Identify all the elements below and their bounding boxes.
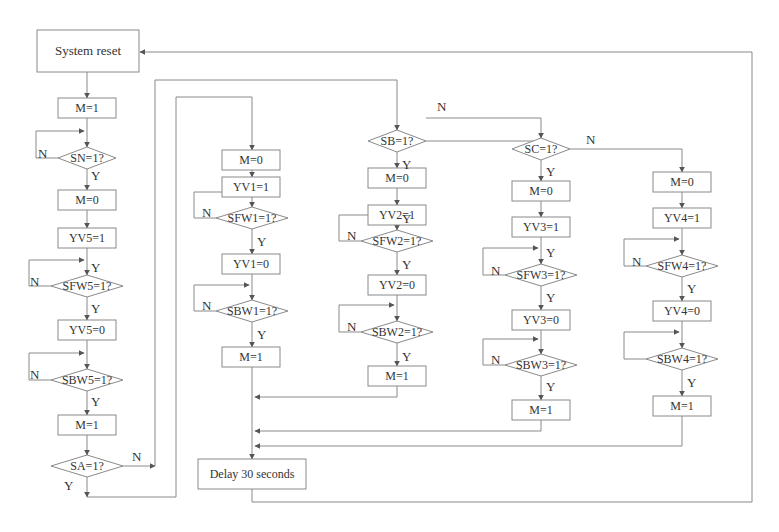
- branch-label-yes: Y: [687, 375, 697, 390]
- branch-label-yes: Y: [91, 394, 101, 409]
- node-label: M=1: [670, 399, 693, 413]
- branch-label-no: N: [437, 99, 447, 114]
- node-label: YV5=0: [69, 323, 105, 337]
- process-yv5on: YV5=1: [58, 228, 116, 248]
- decision-sb: SB=1?: [368, 130, 426, 152]
- node-label: YV5=1: [69, 231, 105, 245]
- process-yv3on: YV3=1: [512, 217, 570, 237]
- node-label: SN=1?: [70, 151, 103, 165]
- decision-sfw1: SFW1=1?: [216, 207, 288, 229]
- process-m1_4: M=1: [653, 396, 711, 416]
- process-yv1off: YV1=0: [222, 254, 280, 274]
- process-m1a: M=1: [58, 98, 116, 118]
- node-label: YV1=1: [233, 180, 269, 194]
- node-label: SFW2=1?: [373, 234, 422, 248]
- decision-sbw2: SBW2=1?: [361, 321, 433, 343]
- process-m0_4: M=0: [653, 172, 711, 192]
- node-label: M=1: [75, 101, 98, 115]
- branch-label-no: N: [347, 319, 357, 334]
- decision-sfw4: SFW4=1?: [646, 255, 718, 277]
- branch-label-yes: Y: [402, 349, 412, 364]
- process-m1b: M=1: [58, 415, 116, 435]
- node-label: M=0: [529, 184, 552, 198]
- decision-sbw5: SBW5=1?: [51, 369, 123, 391]
- node-label: YV3=1: [523, 220, 559, 234]
- edge-sc-no: [570, 149, 682, 172]
- edge-m1_2-to-merge: [255, 386, 397, 397]
- process-yv4off: YV4=0: [653, 301, 711, 321]
- node-label: M=1: [529, 403, 552, 417]
- node-label: SBW1=1?: [227, 304, 277, 318]
- branch-label-no: N: [491, 263, 501, 278]
- branch-label-no: N: [30, 274, 40, 289]
- node-label: System reset: [55, 43, 121, 58]
- branch-label-yes: Y: [402, 257, 412, 272]
- decision-sfw3: SFW3=1?: [505, 264, 577, 286]
- decision-sa: SA=1?: [51, 455, 123, 477]
- branch-label-no: N: [347, 228, 357, 243]
- node-label: YV2=0: [379, 278, 415, 292]
- node-label: SBW3=1?: [516, 358, 566, 372]
- edge-delay-to-reset: [140, 52, 752, 502]
- process-yv4on: YV4=1: [653, 208, 711, 228]
- process-m1_1: M=1: [222, 347, 280, 367]
- node-label: SFW1=1?: [228, 211, 277, 225]
- flowchart-svg: System resetM=1SN=1?M=0YV5=1SFW5=1?YV5=0…: [0, 0, 779, 532]
- edge-m1_3-to-merge: [255, 420, 541, 431]
- process-yv1on: YV1=1: [222, 177, 280, 197]
- branch-label-yes: Y: [64, 478, 74, 493]
- branch-labels: YNYNYNYNYYNYNNYYNYNYNYYNYNYYNY: [30, 99, 697, 493]
- node-label: M=0: [75, 193, 98, 207]
- node-label: M=0: [239, 153, 262, 167]
- branch-label-no: N: [491, 352, 501, 367]
- branch-label-no: N: [632, 254, 642, 269]
- node-label: M=1: [385, 369, 408, 383]
- node-label: YV4=0: [664, 304, 700, 318]
- branch-label-no: N: [30, 367, 40, 382]
- branch-label-no: N: [586, 132, 596, 147]
- branch-label-yes: Y: [91, 301, 101, 316]
- process-m0_1: M=0: [222, 150, 280, 170]
- node-label: YV3=0: [523, 313, 559, 327]
- node-label: SB=1?: [381, 134, 414, 148]
- branch-label-yes: Y: [402, 211, 412, 226]
- flowchart-canvas: System resetM=1SN=1?M=0YV5=1SFW5=1?YV5=0…: [0, 0, 779, 532]
- branch-label-yes: Y: [257, 234, 267, 249]
- node-label: YV4=1: [664, 211, 700, 225]
- edge-sb-no-route: [426, 118, 541, 138]
- node-label: M=0: [670, 175, 693, 189]
- branch-label-yes: Y: [257, 327, 267, 342]
- process-delay: Delay 30 seconds: [198, 459, 306, 489]
- node-label: YV1=0: [233, 257, 269, 271]
- branch-label-no: N: [132, 449, 142, 464]
- decision-sbw1: SBW1=1?: [216, 300, 288, 322]
- node-label: SFW4=1?: [658, 259, 707, 273]
- branch-label-no: N: [202, 205, 212, 220]
- branch-label-yes: Y: [402, 157, 412, 172]
- decision-sbw3: SBW3=1?: [505, 354, 577, 376]
- branch-label-yes: Y: [91, 168, 101, 183]
- branch-label-yes: Y: [546, 164, 556, 179]
- branch-label-no: N: [38, 146, 48, 161]
- process-yv3off: YV3=0: [512, 310, 570, 330]
- node-label: Delay 30 seconds: [210, 467, 295, 481]
- node-label: SFW5=1?: [63, 279, 112, 293]
- branch-label-yes: Y: [546, 379, 556, 394]
- process-reset: System reset: [37, 30, 139, 72]
- node-label: SC=1?: [525, 142, 558, 156]
- process-m0_2: M=0: [368, 168, 426, 188]
- decision-sfw5: SFW5=1?: [51, 275, 123, 297]
- process-m1_3: M=1: [512, 400, 570, 420]
- decision-sn: SN=1?: [58, 147, 116, 169]
- process-yv5off: YV5=0: [58, 320, 116, 340]
- decision-sbw4: SBW4=1?: [646, 348, 718, 370]
- branch-label-no: N: [202, 298, 212, 313]
- node-label: M=0: [385, 171, 408, 185]
- branch-label-yes: Y: [687, 281, 697, 296]
- branch-label-yes: Y: [91, 260, 101, 275]
- edge-sb-no: [426, 138, 541, 141]
- node-label: SBW2=1?: [372, 325, 422, 339]
- branch-label-yes: Y: [546, 290, 556, 305]
- node-label: SA=1?: [70, 459, 103, 473]
- decision-sfw2: SFW2=1?: [361, 230, 433, 252]
